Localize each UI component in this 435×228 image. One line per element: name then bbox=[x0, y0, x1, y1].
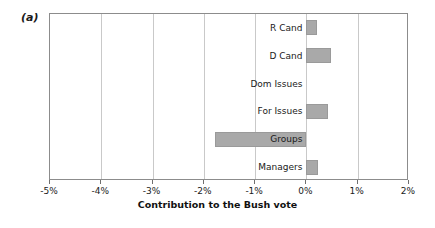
x-tick-label: -2% bbox=[194, 186, 212, 196]
x-tick-label: 0% bbox=[298, 186, 312, 196]
category-label: R Cand bbox=[50, 23, 302, 33]
bar bbox=[306, 160, 317, 175]
category-label: Managers bbox=[50, 162, 302, 172]
x-tick-mark bbox=[408, 180, 409, 184]
bar bbox=[306, 104, 328, 119]
figure-panel: (a) R CandD CandDom IssuesFor IssuesGrou… bbox=[0, 0, 435, 228]
bar bbox=[306, 20, 316, 35]
x-tick-mark bbox=[203, 180, 204, 184]
x-tick-mark bbox=[49, 180, 50, 184]
x-tick-mark bbox=[152, 180, 153, 184]
category-label: D Cand bbox=[50, 51, 302, 61]
x-axis-label: Contribution to the Bush vote bbox=[0, 199, 435, 210]
category-label: Groups bbox=[50, 134, 302, 144]
bar-series: R CandD CandDom IssuesFor IssuesGroupsMa… bbox=[50, 14, 407, 179]
x-tick-label: -4% bbox=[92, 186, 110, 196]
x-tick-mark bbox=[100, 180, 101, 184]
category-label: Dom Issues bbox=[50, 79, 302, 89]
panel-label: (a) bbox=[21, 11, 38, 24]
x-tick-label: 2% bbox=[401, 186, 415, 196]
x-tick-mark bbox=[254, 180, 255, 184]
category-label: For Issues bbox=[50, 106, 302, 116]
bar bbox=[306, 48, 330, 63]
plot-area: R CandD CandDom IssuesFor IssuesGroupsMa… bbox=[49, 13, 408, 180]
x-tick-label: -3% bbox=[143, 186, 161, 196]
x-tick-label: 1% bbox=[350, 186, 364, 196]
x-tick-mark bbox=[305, 180, 306, 184]
x-tick-label: -5% bbox=[40, 186, 58, 196]
x-tick-mark bbox=[357, 180, 358, 184]
x-tick-label: -1% bbox=[245, 186, 263, 196]
